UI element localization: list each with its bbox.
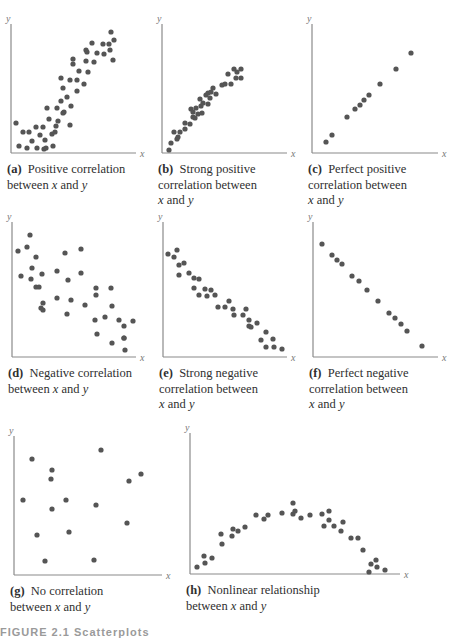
data-point [84,49,89,54]
data-point [213,91,218,96]
y-axis-label: y [307,211,313,222]
data-point [270,336,275,341]
panel-letter: (b) [158,162,173,176]
data-point [319,241,324,246]
x-axis-label: x [139,148,145,159]
caption-line: correlation between [159,382,258,398]
caption-line: x and y [309,397,409,413]
data-point [20,497,25,502]
data-point [49,506,54,511]
data-point [323,139,328,144]
data-point [67,77,72,82]
data-point [94,331,99,336]
data-point [238,75,243,80]
data-point [331,523,336,528]
x-axis-label: x [290,352,296,363]
data-point [68,103,73,108]
caption-line: (b) Strong positive [158,162,257,178]
data-point [68,297,73,302]
caption-line: correlation between [309,382,409,398]
y-axis-label: y [6,211,12,222]
caption-line: between x and y [7,178,125,194]
data-point [207,95,212,100]
y-axis-label: y [156,13,162,24]
data-point [42,558,47,563]
data-point [46,116,51,121]
data-point [404,328,409,333]
data-point [261,516,266,521]
data-point [82,302,87,307]
data-point [58,98,63,103]
data-point [15,248,20,253]
data-point [321,523,326,528]
data-point [83,58,88,63]
data-point [279,510,284,515]
data-point [50,143,55,148]
data-point [94,50,99,55]
data-point [290,500,295,505]
x-axis-label: x [165,570,171,581]
data-point [175,134,180,139]
data-point [174,247,179,252]
data-point [74,77,79,82]
data-point [176,272,181,277]
data-point [326,517,331,522]
data-point [360,547,365,552]
data-point [91,557,96,562]
data-point [229,533,234,538]
data-point [122,347,127,352]
data-point [202,560,207,565]
data-point [408,50,413,55]
data-point [201,553,206,558]
data-point [366,569,371,574]
data-point [230,526,235,531]
data-point [121,323,126,328]
scatter-panel-h: yx [184,422,409,580]
caption-d: (d) Negative correlationbetween x and y [8,366,132,397]
caption-b: (b) Strong positivecorrelation betweenx … [158,162,257,209]
data-point [67,122,72,127]
figure-label: FIGURE 2.1 Scatterplots [0,626,150,638]
caption-line: (h) Nonlinear relationship [186,583,320,599]
data-point [58,75,63,80]
caption-line: x and y [159,397,258,413]
data-point [109,340,114,345]
data-point [265,512,270,517]
data-point [16,143,21,148]
data-point [66,529,71,534]
data-point [248,324,253,329]
data-point [39,271,44,276]
data-point [165,251,170,256]
data-point [64,311,69,316]
data-point [29,456,34,461]
data-point [233,75,238,80]
scatter-panel-d: yx [6,211,145,363]
data-point [246,317,251,322]
data-point [70,61,75,66]
panel-letter: (g) [10,584,25,598]
data-point [334,257,339,262]
scatter-panel-g: yx [8,425,171,581]
data-point [352,106,357,111]
x-axis-label: x [139,352,145,363]
data-point [93,502,98,507]
y-axis-label: y [306,13,312,24]
data-point [13,120,18,125]
data-point [110,57,115,62]
data-point [43,145,48,150]
caption-line: between x and y [186,599,320,615]
data-point [194,564,199,569]
data-point [361,97,366,102]
data-point [226,298,231,303]
caption-line: (c) Perfect positive [308,162,407,178]
data-point [53,123,58,128]
data-point [54,105,59,110]
scatter-panel-c: yx [306,13,447,159]
data-point [364,287,369,292]
data-point [205,101,210,106]
data-point [348,535,353,540]
y-axis-label: y [5,13,11,24]
caption-line: (d) Negative correlation [8,366,132,382]
data-point [171,129,176,134]
